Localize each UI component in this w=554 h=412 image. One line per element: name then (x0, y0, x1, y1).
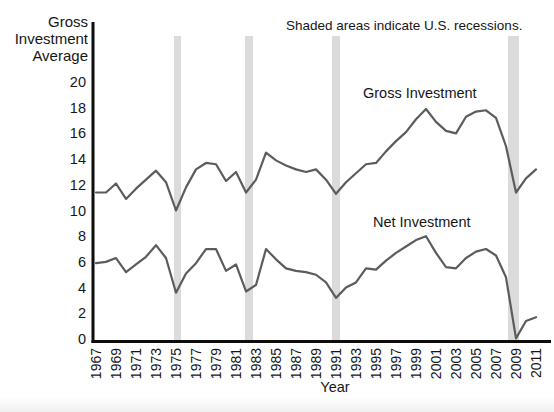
x-tick-label: 1981 (228, 348, 244, 379)
gross-investment-series-label: Gross Investment (363, 85, 477, 101)
y-tick-label: 18 (70, 100, 86, 116)
y-tick-label: 16 (70, 125, 86, 141)
y-axis-title-line1: Gross (0, 13, 88, 30)
x-tick-label: 1991 (328, 348, 344, 379)
x-tick-label: 2011 (528, 348, 544, 378)
x-tick-label: 2005 (468, 348, 484, 379)
net-investment-series-label: Net Investment (373, 214, 471, 230)
y-axis-title-line2: Investment (0, 30, 88, 47)
x-tick-label: 1969 (108, 348, 124, 379)
y-tick-label: 6 (78, 254, 86, 270)
y-axis-title: Gross Investment Average (0, 13, 88, 64)
x-tick-label: 1971 (128, 348, 144, 379)
x-tick-label: 1979 (208, 348, 224, 379)
x-tick-label: 1999 (408, 348, 424, 379)
y-tick-label: 20 (70, 74, 86, 90)
x-tick-label: 1987 (288, 348, 304, 379)
x-tick-label: 1977 (188, 348, 204, 379)
gross-investment-line (96, 109, 536, 211)
x-tick-label: 1975 (168, 348, 184, 379)
x-tick-label: 1989 (308, 348, 324, 379)
y-tick-label: 4 (78, 280, 86, 296)
x-tick-label: 1993 (348, 348, 364, 379)
net-investment-line (96, 236, 536, 338)
x-axis-title: Year (305, 379, 365, 395)
y-tick-label: 10 (70, 203, 86, 219)
x-tick-label: 1983 (248, 348, 264, 379)
x-tick-label: 2001 (428, 348, 444, 379)
x-tick-label: 2009 (508, 348, 524, 379)
x-tick-label: 1973 (148, 348, 164, 379)
y-tick-label: 8 (78, 228, 86, 244)
figure-investment-chart: 0246810121416182019671969197119731975197… (0, 0, 554, 412)
x-tick-label: 1967 (88, 348, 104, 379)
y-axis-title-line3: Average (0, 47, 88, 64)
x-tick-label: 2003 (448, 348, 464, 379)
y-tick-label: 12 (70, 177, 86, 193)
x-tick-label: 1997 (388, 348, 404, 379)
recession-band (174, 36, 181, 340)
x-tick-label: 1985 (268, 348, 284, 379)
x-tick-label: 1995 (368, 348, 384, 379)
recession-note: Shaded areas indicate U.S. recessions. (286, 18, 548, 33)
x-tick-label: 2007 (488, 348, 504, 379)
y-tick-label: 2 (78, 305, 86, 321)
y-tick-label: 14 (70, 151, 86, 167)
y-tick-label: 0 (78, 331, 86, 347)
